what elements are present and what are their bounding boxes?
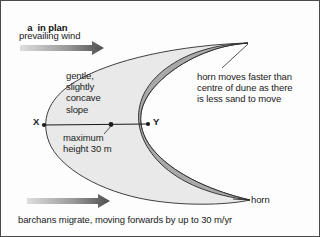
barchan-dune-figure: a in plan prevailing wind gentle, slight… [0,0,320,237]
section-label-x: X [33,116,39,127]
migration-caption: barchans migrate, moving forwards by up … [18,214,232,225]
section-point-y [146,122,150,126]
horn-speed-leader-line [222,44,248,68]
horn-label: horn [251,194,270,205]
horn-speed-label: horn moves faster than centre of dune as… [197,71,292,105]
section-label-y: Y [153,116,159,127]
prevailing-wind-label: prevailing wind [19,30,80,41]
max-height-label: maximum height 30 m [63,132,112,154]
section-point-x [42,123,46,127]
gentle-slope-label: gentle, slightly concave slope [66,70,101,115]
migration-arrow [27,194,110,208]
